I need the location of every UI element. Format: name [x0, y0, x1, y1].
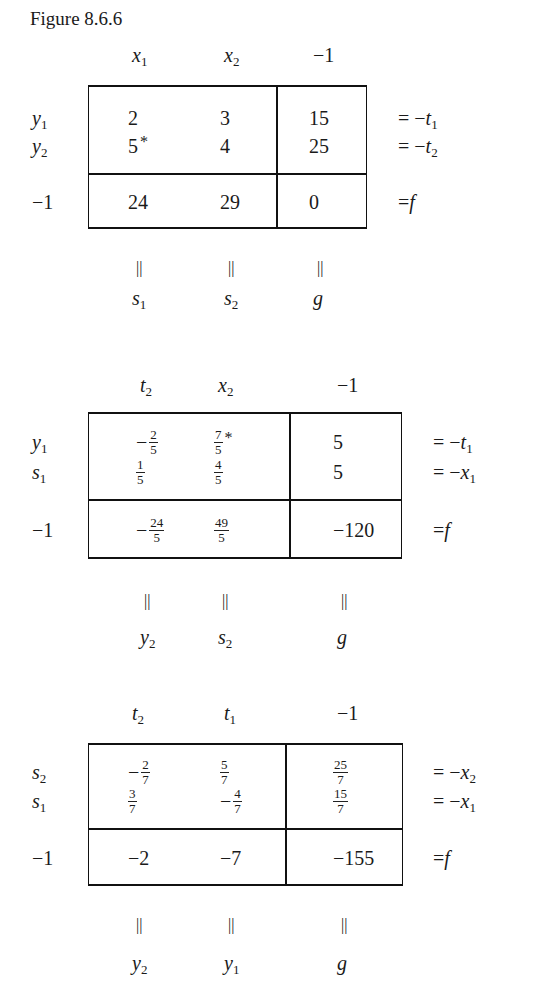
tableau-cell-numerator: 49: [214, 516, 229, 531]
column-equals-marker: ||: [317, 260, 323, 276]
row-equation-var: f: [444, 519, 450, 541]
column-equals-marker: ||: [228, 917, 234, 933]
column-header-subscript: 2: [146, 384, 153, 399]
column-header: x2: [218, 375, 233, 395]
tableau-cell-numerator: 24: [149, 516, 164, 531]
column-equals-marker: ||: [341, 917, 347, 933]
tableau-cell-value: 15: [309, 108, 329, 128]
tableau-cell-value: 29: [220, 192, 240, 212]
tableau-cell-pivot-marker: *: [140, 134, 148, 150]
tableau-cell-value: 5: [128, 136, 138, 156]
row-label: y1: [32, 432, 47, 452]
row-label-subscript: 1: [41, 117, 48, 132]
rhs-column-divider: [289, 412, 291, 559]
column-footer-label: g: [337, 627, 347, 647]
tableau-cell-numerator: 2: [141, 758, 150, 773]
tableau-cell-value: −120: [333, 520, 374, 540]
tableau-cell-numerator: 5: [220, 758, 229, 773]
column-header-var: x: [132, 44, 141, 66]
tableau-cell-denominator: 5: [154, 531, 161, 545]
row-equation: = −x2: [433, 762, 476, 782]
tableau-cell-denominator: 5: [215, 473, 222, 487]
row-equation-subscript: 1: [431, 117, 438, 132]
row-equation-sign: = −: [433, 431, 461, 453]
column-header-subscript: 1: [141, 54, 148, 69]
column-header: −1: [313, 45, 334, 65]
column-footer-label-var: s: [224, 287, 232, 309]
tableau-cell: 257: [333, 760, 348, 784]
tableau-cell-numerator: 15: [333, 787, 348, 802]
row-label-var: y: [32, 431, 41, 453]
tableau-cell-fraction: 57: [220, 758, 229, 786]
column-header-var: x: [224, 44, 233, 66]
row-equation-subscript: 1: [469, 471, 476, 486]
row-equation-subscript: 1: [469, 800, 476, 815]
row-equation: =f: [433, 848, 450, 868]
tableau-cell-fraction: 157: [333, 787, 348, 815]
row-equation-sign: = −: [433, 461, 461, 483]
row-label-subscript: 1: [40, 800, 47, 815]
row-equation: = −t1: [433, 432, 473, 452]
column-equals-marker: ||: [136, 260, 142, 276]
tableau-cell: 4: [220, 134, 230, 158]
tableau-cell-value: 2: [128, 108, 138, 128]
row-label-subscript: 1: [40, 471, 47, 486]
tableau-cell: 5: [333, 460, 343, 484]
row-equation-sign: = −: [433, 790, 461, 812]
tableau-cell-fraction: 257: [333, 758, 348, 786]
row-label-var: y: [32, 107, 41, 129]
row-equation-sign: =: [433, 847, 444, 869]
column-header: t2: [132, 703, 144, 723]
tableau-cell: 29: [220, 190, 240, 214]
column-header-var: −1: [337, 702, 358, 724]
row-label-var: −1: [32, 847, 53, 869]
tableau-cell-value: −155: [333, 848, 374, 868]
column-footer-label: y2: [140, 627, 155, 647]
tableau-cell: 37: [128, 789, 137, 813]
tableau-cell: 5*: [128, 134, 148, 158]
tableau-cell-fraction: 15: [136, 458, 145, 486]
column-footer-label: y2: [132, 953, 147, 973]
tableau-cell-numerator: 4: [233, 787, 242, 802]
tableau-cell-numerator: 7: [214, 428, 223, 443]
row-label: s1: [32, 791, 46, 811]
tableau-cell: 3: [220, 106, 230, 130]
tableau-cell-value: 4: [220, 136, 230, 156]
column-footer-label-var: g: [337, 952, 347, 974]
tableau-cell-pivot-marker: *: [225, 430, 233, 446]
tableau-cell-denominator: 5: [215, 443, 222, 457]
column-footer-label-var: s: [132, 287, 140, 309]
objective-row-divider: [88, 173, 367, 175]
row-label-subscript: 2: [41, 145, 48, 160]
tableau-cell-numerator: 2: [149, 428, 158, 443]
tableau-cell: −120: [333, 518, 374, 542]
column-header-var: −1: [313, 44, 334, 66]
column-header-subscript: 2: [233, 54, 240, 69]
tableau-cell-numerator: 3: [128, 787, 137, 802]
tableau-cell: 157: [333, 789, 348, 813]
tableau-cell-numerator: 4: [214, 458, 223, 473]
tableau-cell: 15: [136, 460, 145, 484]
tableau-cell-fraction: 245: [149, 516, 164, 544]
tableau-cell: −155: [333, 846, 374, 870]
tableau-cell-denominator: 7: [234, 802, 241, 816]
tableau-cell-sign: −: [136, 520, 147, 540]
column-header-var: x: [218, 374, 227, 396]
tableau-cell: −27: [128, 760, 150, 784]
row-label: s1: [32, 462, 46, 482]
column-header: −1: [337, 375, 358, 395]
column-equals-marker: ||: [341, 593, 347, 609]
tableau-cell-fraction: 25: [149, 428, 158, 456]
column-footer-label-subscript: 2: [149, 636, 156, 651]
tableau-cell-sign: −: [220, 791, 231, 811]
tableau-cell-value: 0: [309, 192, 319, 212]
tableau-cell-sign: −: [136, 432, 147, 452]
row-equation-sign: = −: [398, 107, 426, 129]
tableau-cell: −25: [136, 430, 158, 454]
tableau-cell-denominator: 5: [137, 473, 144, 487]
row-equation: = −x1: [433, 791, 476, 811]
tableau-cell-denominator: 7: [142, 773, 149, 787]
row-equation-subscript: 2: [469, 771, 476, 786]
row-label-subscript: 2: [40, 771, 47, 786]
tableau-cell-value: 25: [309, 136, 329, 156]
